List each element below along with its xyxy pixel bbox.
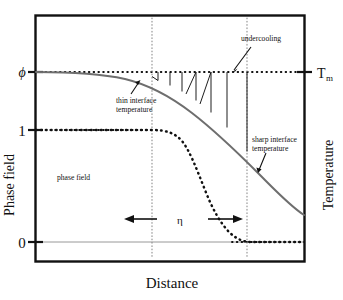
annotation-eta: η bbox=[177, 214, 183, 226]
annotation-sharp-interface-line1: sharp interface bbox=[252, 135, 298, 144]
tick-label-one: 1 bbox=[18, 123, 26, 139]
annotation-thin-interface-line2: temperature bbox=[116, 105, 153, 114]
annotation-phase-field: phase field bbox=[57, 173, 90, 182]
annotation-sharp-interface-line2: temperature bbox=[252, 144, 289, 153]
tick-label-tm-main: T bbox=[317, 66, 326, 81]
annotation-undercooling: undercooling bbox=[241, 34, 281, 43]
bottom-axis-title: Distance bbox=[146, 275, 199, 291]
right-axis-title: Temperature bbox=[321, 140, 336, 211]
phase-field-temperature-figure: ϕ 1 0 T m Phase field Temperature Distan… bbox=[0, 0, 343, 300]
tick-label-phi: ϕ bbox=[18, 65, 25, 80]
figure-background bbox=[0, 0, 343, 300]
left-axis-title: Phase field bbox=[2, 154, 17, 216]
tick-label-tm-subscript: m bbox=[326, 73, 333, 83]
annotation-thin-interface-line1: thin interface bbox=[116, 96, 157, 105]
tick-label-zero: 0 bbox=[18, 235, 26, 251]
